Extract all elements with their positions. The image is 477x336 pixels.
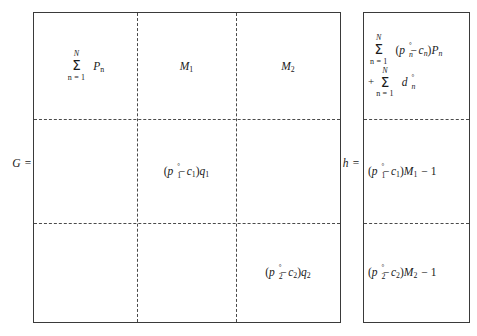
v-tail-2: − 1	[417, 266, 436, 278]
matrix-cell-2-1	[137, 223, 236, 322]
p1-degree-icon: °	[177, 162, 180, 171]
vp1-degree-icon: °	[382, 162, 385, 171]
vp1-degree-term: p1°1	[372, 164, 382, 178]
sum-body-subscript: n	[100, 65, 104, 74]
summation-pair: N Σ n = 1 (pn°n−cn)Pn + N Σ n = 1 dn°n	[368, 34, 442, 98]
expression-p2c2q2: (p2°1−c2)q2	[265, 265, 311, 279]
vp1-subscript: 1	[382, 171, 386, 181]
vM2-base: M	[404, 266, 414, 278]
term-2-lead-sign: +	[368, 75, 374, 89]
pn-degree-term: pn°n	[399, 43, 409, 57]
vector-label-h: h =	[336, 157, 360, 169]
v-tail-1: − 1	[417, 165, 436, 177]
symbol-m1-base: M	[180, 60, 190, 72]
sigma-glyph-v2: Σ	[381, 75, 390, 91]
v-sum2-lower-limit: n = 1	[376, 90, 394, 98]
vector-cell-1: (p1°1−c1)M1− 1	[364, 119, 469, 223]
matrix-cell-1-0	[34, 119, 137, 223]
v-sum2-body: dn°n	[402, 75, 412, 89]
matrix-label-g: G =	[8, 157, 32, 169]
matrix-cell-0-2: M2	[236, 13, 340, 119]
vector-label-h-text: h =	[343, 157, 360, 169]
symbol-m2-base: M	[281, 60, 291, 72]
dn-subscript: n	[411, 82, 415, 92]
vp1-base: p	[372, 165, 378, 177]
q2-subscript: 2	[307, 272, 311, 281]
symbol-m2-sub: 2	[291, 65, 295, 74]
symbol-m1: M1	[180, 59, 194, 73]
vector-cell-0: N Σ n = 1 (pn°n−cn)Pn + N Σ n = 1 dn°n	[364, 13, 469, 119]
p1-subscript: 1	[177, 171, 181, 181]
equation-figure: G = N Σ n = 1 Pn M1 M2	[0, 0, 477, 336]
sum-body-pn: Pn	[93, 59, 104, 73]
pn-subscript: n	[409, 50, 413, 60]
p2-degree-icon: °	[279, 263, 282, 272]
p1-degree-term: p1°1	[168, 164, 178, 178]
vp2-degree-term: p2°1	[372, 265, 382, 279]
summation-term-2: + N Σ n = 1 dn°n	[368, 67, 442, 99]
sigma-glyph: Σ	[72, 58, 81, 74]
expression-p1c1M1: (p1°1−c1)M1− 1	[368, 164, 436, 178]
q1-subscript: 1	[205, 170, 209, 179]
sum-lower-limit: n = 1	[68, 74, 86, 82]
dn-base: d	[402, 76, 408, 88]
matrix-cell-2-0	[34, 223, 137, 322]
vector-cell-2: (p2°1−c2)M2− 1	[364, 223, 469, 322]
v-sum1-body: (pn°n−cn)Pn	[396, 43, 443, 57]
expression-p1c1q1: (p1°1−c1)q1	[164, 164, 210, 178]
Pn-subscript: n	[438, 49, 442, 58]
p2-degree-term: p2°1	[269, 265, 279, 279]
sigma-operator-icon: N Σ n = 1	[68, 50, 86, 82]
summation-term-1: N Σ n = 1 (pn°n−cn)Pn	[368, 34, 442, 66]
matrix-cell-2-2: (p2°1−c2)q2	[236, 223, 340, 322]
dn-degree-term: dn°n	[402, 75, 412, 89]
expression-p2c2M2: (p2°1−c2)M2− 1	[368, 265, 436, 279]
matrix-label-g-text: G =	[12, 157, 32, 169]
sigma-operator-icon-v2: N Σ n = 1	[376, 67, 394, 99]
summation-sum-pn: N Σ n = 1 Pn	[67, 50, 104, 82]
matrix-cell-1-1: (p1°1−c1)q1	[137, 119, 236, 223]
pn-base: p	[399, 44, 405, 56]
vp2-degree-icon: °	[382, 263, 385, 272]
dn-degree-icon: °	[411, 73, 414, 82]
sigma-glyph-v1: Σ	[374, 42, 383, 58]
p2-subscript: 2	[279, 272, 283, 282]
p2-base: p	[269, 266, 275, 278]
vector-h: N Σ n = 1 (pn°n−cn)Pn + N Σ n = 1 dn°n	[363, 12, 470, 323]
pn-degree-icon: °	[409, 41, 412, 50]
vp2-base: p	[372, 266, 378, 278]
matrix-g: N Σ n = 1 Pn M1 M2 (p1°1−c1)q1 (p2°1−c2)…	[33, 12, 341, 323]
p1-base: p	[168, 165, 174, 177]
matrix-cell-1-2	[236, 119, 340, 223]
sigma-operator-icon-v1: N Σ n = 1	[370, 34, 388, 66]
vp2-subscript: 2	[382, 272, 386, 282]
symbol-m2: M2	[281, 59, 295, 73]
matrix-cell-0-0: N Σ n = 1 Pn	[34, 13, 137, 119]
v-sum1-lower-limit: n = 1	[370, 58, 388, 66]
symbol-m1-sub: 1	[189, 65, 193, 74]
matrix-cell-0-1: M1	[137, 13, 236, 119]
vM1-base: M	[404, 165, 414, 177]
